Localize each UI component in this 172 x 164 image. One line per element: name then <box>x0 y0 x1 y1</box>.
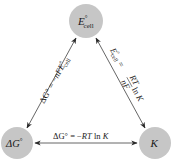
edge-left-label: ΔG° = −nFE°cell <box>37 55 72 106</box>
edge-bottom-label: ΔG° = −RT ln K <box>53 131 110 141</box>
svg-text:lnK: lnK <box>130 85 146 104</box>
node-k-symbol: K <box>150 137 159 149</box>
svg-text:ΔG° = −nFE°cell: ΔG° = −nFE°cell <box>37 55 72 106</box>
diagram-canvas: E°cell ΔG° K ΔG° = −nFE°cell E°cell = RT… <box>0 0 172 164</box>
node-delta-g-symbol: ΔG <box>5 138 20 149</box>
node-k: K <box>139 127 171 159</box>
edge-right-label: E°cell = RT nF lnK <box>103 43 150 107</box>
svg-text:E°cell =: E°cell = <box>107 45 127 69</box>
node-e-cell: E°cell <box>69 4 103 38</box>
node-delta-g: ΔG° <box>1 127 33 159</box>
